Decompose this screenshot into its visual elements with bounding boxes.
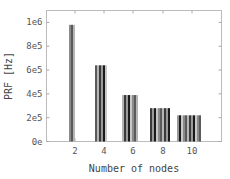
bar-stripe xyxy=(73,25,75,142)
bar-stripe xyxy=(154,108,156,141)
bar-group-10 xyxy=(177,115,201,141)
bar-group-2 xyxy=(69,25,75,142)
bar-stripe xyxy=(101,65,103,141)
bar-stripe xyxy=(124,95,126,141)
bar-stripe xyxy=(185,115,187,141)
y-axis-label: PRF [Hz] xyxy=(3,52,14,100)
bar-stripe xyxy=(71,25,73,142)
bar-stripe xyxy=(162,108,164,141)
bar-stripe xyxy=(130,95,132,141)
bars xyxy=(69,25,201,142)
bar-stripe xyxy=(150,108,152,141)
x-tick-label: 8 xyxy=(160,146,165,156)
bar-stripe xyxy=(95,65,97,141)
bar-stripe xyxy=(189,115,191,141)
y-tick-label: 1e6 xyxy=(26,17,42,27)
bar-stripe xyxy=(187,115,189,141)
bar-stripe xyxy=(199,115,201,141)
y-tick-label: 2e5 xyxy=(26,113,42,123)
bar-stripe xyxy=(69,25,71,142)
bar-stripe xyxy=(134,95,136,141)
bar-stripe xyxy=(105,65,107,141)
bar-stripe xyxy=(132,95,134,141)
bar-stripe xyxy=(103,65,105,141)
bar-stripe xyxy=(183,115,185,141)
bar-stripe xyxy=(197,115,199,141)
x-tick-label: 2 xyxy=(72,146,77,156)
bar-group-4 xyxy=(95,65,107,141)
bar-stripe xyxy=(166,108,168,141)
bar-stripe xyxy=(177,115,179,141)
bar-stripe xyxy=(99,65,101,141)
bar-stripe xyxy=(168,108,170,141)
x-axis-label: Number of nodes xyxy=(89,163,179,174)
y-tick-label: 6e5 xyxy=(26,65,42,75)
bar-stripe xyxy=(191,115,193,141)
bar-group-6 xyxy=(122,95,138,141)
bar-stripe xyxy=(181,115,183,141)
bar-stripe xyxy=(122,95,124,141)
y-tick-label: 4e5 xyxy=(26,89,42,99)
bar-stripe xyxy=(156,108,158,141)
bar-chart: 0e2e54e56e58e51e6 246810 Number of nodes… xyxy=(0,0,230,179)
bar-stripe xyxy=(136,95,138,141)
bar-stripe xyxy=(158,108,160,141)
bar-stripe xyxy=(195,115,197,141)
bar-stripe xyxy=(160,108,162,141)
bar-stripe xyxy=(97,65,99,141)
bar-group-8 xyxy=(150,108,170,141)
bar-stripe xyxy=(128,95,130,141)
bar-stripe xyxy=(164,108,166,141)
bar-stripe xyxy=(126,95,128,141)
x-tick-label: 4 xyxy=(101,146,106,156)
bar-stripe xyxy=(179,115,181,141)
x-tick-label: 10 xyxy=(187,146,198,156)
x-tick-label: 6 xyxy=(130,146,135,156)
y-tick-label: 8e5 xyxy=(26,41,42,51)
bar-stripe xyxy=(193,115,195,141)
bar-stripe xyxy=(152,108,154,141)
y-tick-label: 0e xyxy=(32,137,43,147)
